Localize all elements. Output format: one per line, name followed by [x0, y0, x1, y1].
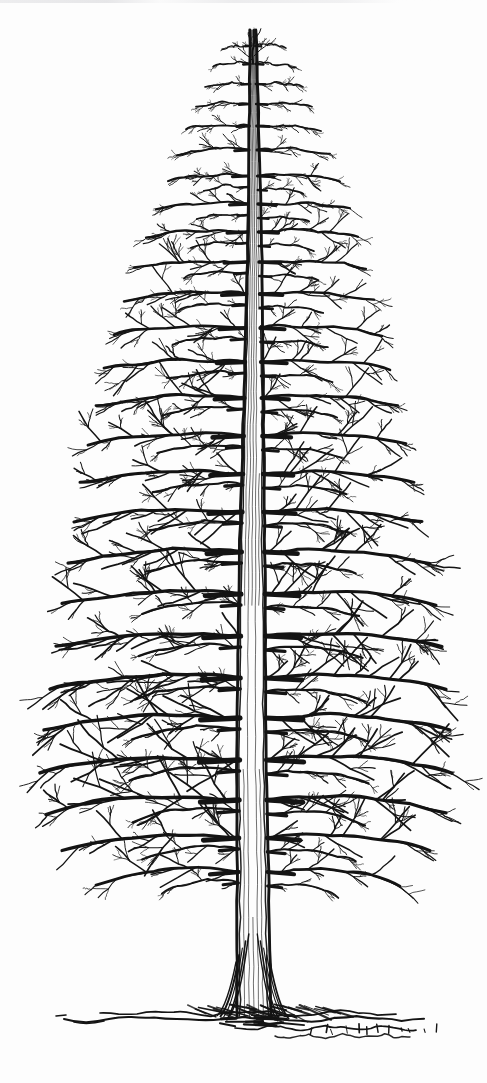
branch-collar	[224, 262, 247, 263]
branch-collar	[219, 328, 245, 329]
ground-shadow-stroke	[257, 1019, 287, 1020]
branch-collar	[267, 774, 287, 776]
tree-drawing	[0, 0, 487, 1083]
branch-collar	[228, 409, 244, 410]
branch-collar	[263, 488, 280, 489]
tree-illustration-canvas: Bare Conifer Tree pine tree, defoliated,…	[0, 0, 487, 1083]
ground-grass-tick	[401, 1028, 402, 1031]
branch-collar	[217, 362, 245, 363]
branch-collar	[230, 204, 248, 205]
branch-collar	[238, 215, 248, 216]
branch-collar	[266, 650, 285, 651]
branch-collar	[265, 594, 299, 596]
branch-collar	[203, 838, 238, 840]
branch-collar	[268, 872, 295, 874]
branch-collar	[266, 678, 302, 680]
ground-shadow-stroke	[270, 1015, 294, 1016]
ground-shadow-stroke	[221, 1018, 236, 1019]
ground-grass-tick	[436, 1024, 437, 1032]
branch-collar	[262, 436, 291, 437]
branch-collar	[236, 243, 247, 244]
ground-tick	[56, 1015, 66, 1016]
branch-collar	[231, 339, 246, 340]
branch-collar	[232, 176, 248, 177]
branch-collar	[266, 692, 286, 694]
branch-collar	[267, 814, 287, 816]
branch-collar	[261, 362, 287, 363]
branch-collar	[222, 294, 246, 295]
branch-collar	[235, 150, 249, 151]
branch-twig	[94, 889, 109, 890]
branch-collar	[267, 852, 285, 854]
branch-collar	[233, 305, 247, 306]
branch-collar	[263, 474, 293, 475]
branch-collar	[264, 526, 282, 527]
branch-collar	[201, 718, 240, 720]
branch-collar	[266, 718, 303, 720]
